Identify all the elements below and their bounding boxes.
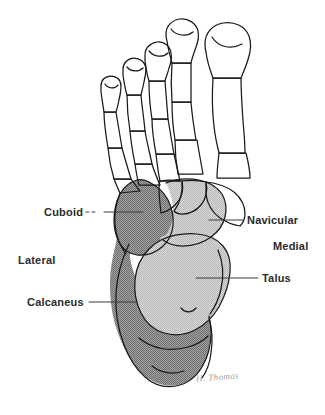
label-medial: Medial [273, 240, 308, 252]
label-navicular: Navicular [247, 214, 298, 226]
label-lateral: Lateral [18, 254, 55, 266]
label-cuboid: Cuboid [44, 206, 83, 218]
label-talus: Talus [262, 272, 291, 284]
label-calcaneus: Calcaneus [27, 296, 84, 308]
